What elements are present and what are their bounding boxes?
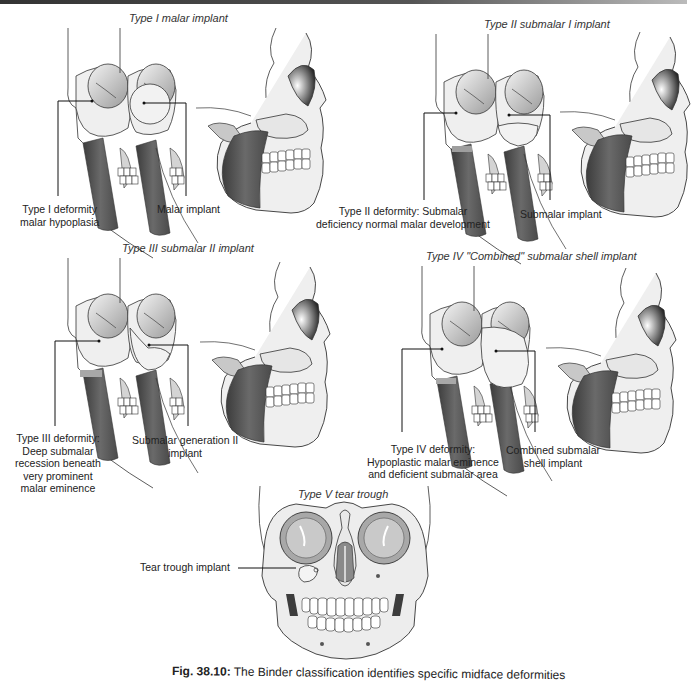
tear-trough-implant-label: Tear trough implant [140, 561, 230, 574]
figure-number: Fig. 38.10: [172, 664, 231, 679]
